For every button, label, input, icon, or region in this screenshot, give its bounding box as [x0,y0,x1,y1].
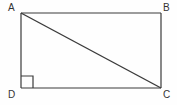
vertex-label-a: A [8,3,15,13]
vertex-label-d: D [8,90,15,100]
diagonal-AC [21,13,161,88]
vertex-label-c: C [163,90,170,100]
geometry-figure: A B C D [0,0,177,105]
right-angle-square-icon [21,76,33,88]
vertex-label-b: B [163,3,170,13]
rectangle-diagonal-drawing [0,0,177,105]
